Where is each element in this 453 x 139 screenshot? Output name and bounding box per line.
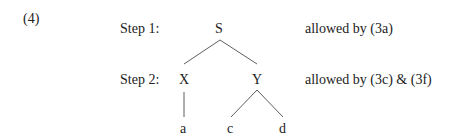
- tree-edges: [0, 0, 453, 139]
